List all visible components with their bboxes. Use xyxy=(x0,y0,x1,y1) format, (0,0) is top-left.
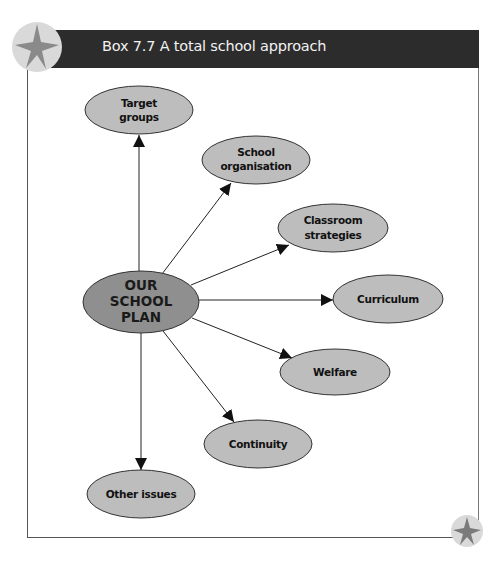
node-label: SCHOOL xyxy=(110,293,173,309)
node-other-issues: Other issues xyxy=(87,470,195,518)
node-classroom-strategies: Classroom strategies xyxy=(278,204,388,252)
node-target-groups: Target groups xyxy=(85,86,193,134)
node-label: OUR xyxy=(125,277,158,293)
edge-to-classroom-strategies xyxy=(191,245,289,285)
node-label: strategies xyxy=(304,229,361,241)
star-badge-top-left xyxy=(12,22,62,72)
node-label: organisation xyxy=(220,160,291,172)
node-our-school-plan: OUR SCHOOL PLAN xyxy=(83,271,199,333)
node-continuity: Continuity xyxy=(204,420,312,468)
edge-to-welfare xyxy=(192,318,292,358)
node-label: School xyxy=(237,146,275,158)
node-label: Continuity xyxy=(229,438,288,450)
edge-to-school-organisation xyxy=(162,183,231,274)
node-school-organisation: School organisation xyxy=(202,136,310,184)
node-label: Other issues xyxy=(106,488,177,500)
node-label: Curriculum xyxy=(357,293,419,305)
node-label: groups xyxy=(119,111,158,123)
node-curriculum: Curriculum xyxy=(333,275,443,323)
node-label: Target xyxy=(121,97,157,109)
node-label: Welfare xyxy=(313,366,357,378)
star-badge-bottom-right xyxy=(451,515,483,547)
node-label: PLAN xyxy=(121,309,161,325)
node-label: Classroom xyxy=(304,214,363,226)
node-welfare: Welfare xyxy=(280,349,390,395)
concept-map: OUR SCHOOL PLAN Target groups School org… xyxy=(0,0,497,562)
edge-to-continuity xyxy=(163,331,234,422)
